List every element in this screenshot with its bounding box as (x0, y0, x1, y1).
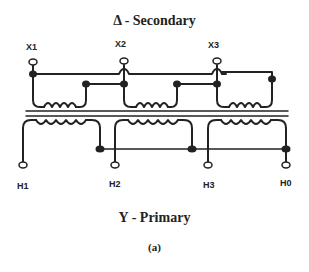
terminal-label-h1: H1 (17, 181, 29, 191)
terminal-h1 (19, 162, 27, 168)
terminal-h2 (111, 162, 119, 168)
terminal-h0 (282, 162, 290, 168)
secondary-winding-1 (33, 74, 86, 107)
terminal-h3 (204, 162, 212, 168)
primary-winding-2 (115, 120, 192, 162)
secondary-winding-3 (217, 79, 272, 107)
transformer-schematic (0, 0, 309, 272)
terminal-label-h2: H2 (109, 179, 121, 189)
terminal-x3 (213, 58, 221, 64)
terminal-x2 (120, 58, 128, 64)
delta-wire-top (33, 69, 222, 74)
delta-wire-x3-return (222, 72, 272, 79)
secondary-winding-2 (124, 84, 177, 107)
terminal-x1 (29, 59, 37, 65)
primary-winding-1 (23, 120, 100, 162)
primary-title: Y - Primary (0, 210, 309, 226)
terminal-label-h0: H0 (280, 178, 292, 188)
terminal-label-h3: H3 (203, 180, 215, 190)
primary-winding-3 (208, 120, 286, 162)
figure-caption: (a) (0, 241, 309, 253)
